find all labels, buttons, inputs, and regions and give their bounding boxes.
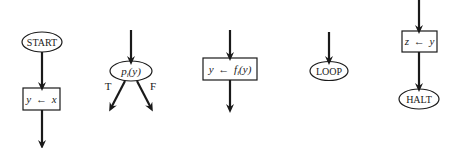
- start-group: START y ← x: [22, 32, 62, 145]
- assign-z-rhs: y: [428, 35, 434, 47]
- svg-text:pi(y): pi(y): [120, 65, 141, 79]
- start-label: START: [27, 37, 57, 48]
- assign-y-f-node: y ← fi(y): [203, 58, 257, 80]
- svg-text:y ← fi(y): y ← fi(y): [208, 63, 252, 77]
- assign-f-lhs: y: [208, 63, 214, 75]
- true-label: T: [105, 80, 112, 92]
- halt-group: z ← y HALT: [399, 0, 439, 109]
- assign-f-group: y ← fi(y): [203, 30, 257, 109]
- loop-node: LOOP: [310, 62, 348, 81]
- halt-node: HALT: [399, 89, 439, 109]
- start-node: START: [22, 32, 62, 52]
- assign-z-y-node: z ← y: [402, 31, 437, 52]
- test-group: pi(y) T F: [105, 30, 156, 108]
- flowchart-canvas: START y ← x pi(y) T F: [0, 0, 460, 148]
- test-node: pi(y): [110, 61, 152, 81]
- assign-f-op: ←: [218, 63, 229, 75]
- loop-label: LOOP: [316, 66, 343, 77]
- halt-label: HALT: [406, 94, 432, 105]
- assign-y-x-node: y ← x: [23, 88, 60, 110]
- assign-y-x-rhs: x: [51, 93, 57, 105]
- assign-z-op: ←: [414, 35, 425, 47]
- false-label: F: [150, 80, 156, 92]
- assign-z-lhs: z: [404, 35, 410, 47]
- assign-f-arg: (y): [239, 63, 252, 76]
- assign-y-x-lhs: y: [25, 93, 31, 105]
- svg-text:z ← y: z ← y: [404, 35, 435, 47]
- arrow-false-branch: [137, 81, 151, 108]
- arrow-true-branch: [111, 81, 125, 108]
- assign-y-x-op: ←: [36, 93, 47, 105]
- loop-group: LOOP: [310, 32, 348, 81]
- test-arg: (y): [129, 65, 142, 78]
- svg-text:y ← x: y ← x: [25, 93, 56, 105]
